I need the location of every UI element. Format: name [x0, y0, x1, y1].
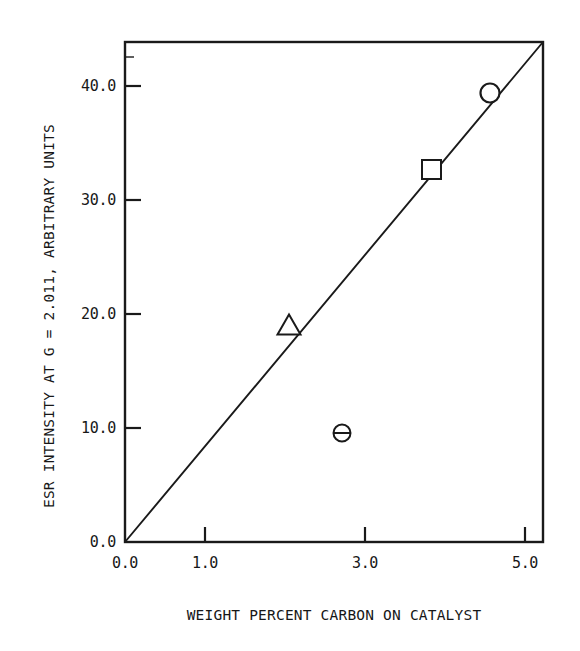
trend-line — [125, 42, 543, 542]
circle-marker-icon — [481, 84, 500, 103]
plot-canvas — [0, 0, 580, 651]
y-tick-label-10: 10.0 — [8, 421, 116, 436]
y-tick-label-40: 40.0 — [8, 79, 116, 94]
data-point-circle-bar — [334, 425, 351, 442]
square-marker-icon — [422, 160, 441, 179]
y-tick-label-30: 30.0 — [8, 193, 116, 208]
y-tick-label-0: 0.0 — [8, 535, 116, 550]
y-tick-label-20: 20.0 — [8, 307, 116, 322]
x-tick-label-3: 3.0 — [352, 556, 378, 571]
y-axis-ticks — [125, 57, 141, 428]
x-axis-title: WEIGHT PERCENT CARBON ON CATALYST — [187, 608, 482, 623]
data-point-triangle — [278, 315, 301, 335]
y-axis-title: ESR INTENSITY AT G = 2.011, ARBITRARY UN… — [42, 124, 57, 508]
data-point-square — [422, 160, 441, 179]
x-axis-ticks — [205, 527, 525, 542]
x-tick-label-5: 5.0 — [512, 556, 538, 571]
triangle-marker-icon — [278, 315, 301, 335]
fit-line-segment — [125, 42, 543, 542]
data-point-circle — [481, 84, 500, 103]
chart-figure: 40.0 30.0 20.0 10.0 0.0 0.0 1.0 3.0 5.0 … — [0, 0, 580, 651]
x-tick-label-0: 0.0 — [112, 556, 138, 571]
x-tick-label-1: 1.0 — [192, 556, 218, 571]
